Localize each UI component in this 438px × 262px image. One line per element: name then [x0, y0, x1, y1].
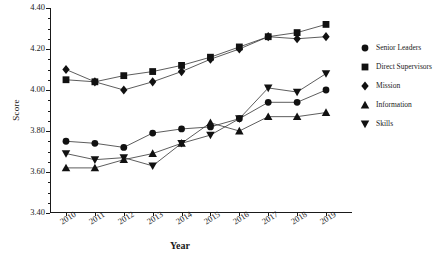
series-line: [66, 37, 326, 90]
chart-container: Score Year 3.403.603.804.004.204.40 2010…: [0, 0, 438, 262]
data-point-diamond: [361, 81, 368, 90]
series-information: [62, 108, 331, 171]
data-point-square: [149, 68, 156, 75]
legend-item-information[interactable]: Information: [358, 95, 438, 114]
data-point-circle: [323, 87, 330, 94]
y-tick-label: 4.40: [11, 2, 45, 12]
data-point-circle: [362, 44, 369, 51]
data-point-triangle-up: [91, 164, 100, 172]
data-point-triangle-down: [91, 156, 100, 164]
triangle-down-icon: [358, 117, 372, 131]
data-point-square: [120, 72, 127, 79]
data-point-square: [63, 76, 70, 83]
diamond-icon: [358, 79, 372, 93]
y-tick-label: 3.80: [11, 125, 45, 135]
plot-area: 3.403.603.804.004.204.40 201020112012201…: [50, 8, 350, 213]
data-point-circle: [120, 144, 127, 151]
data-point-circle: [178, 126, 185, 133]
data-point-triangle-up: [322, 108, 331, 116]
data-point-triangle-down: [293, 89, 302, 97]
legend-label: Skills: [376, 119, 393, 128]
data-point-triangle-up: [264, 112, 273, 120]
data-point-diamond: [62, 65, 69, 74]
series-mission: [62, 32, 329, 94]
data-point-triangle-down: [322, 70, 331, 78]
series-layer: [50, 8, 352, 214]
data-point-diamond: [322, 32, 329, 41]
y-tick-label: 3.40: [11, 207, 45, 217]
x-axis-title: Year: [0, 240, 360, 251]
legend-label: Mission: [376, 81, 400, 90]
circle-icon: [358, 41, 372, 55]
data-point-circle: [91, 140, 98, 147]
legend-label: Direct Supervisors: [376, 62, 432, 71]
legend-item-mission[interactable]: Mission: [358, 76, 438, 95]
legend-item-direct-supervisors[interactable]: Direct Supervisors: [358, 57, 438, 76]
data-point-square: [323, 21, 330, 28]
series-line: [66, 74, 326, 166]
data-point-triangle-down: [361, 120, 370, 128]
legend-label: Senior Leaders: [376, 43, 421, 52]
data-point-square: [362, 63, 369, 70]
series-senior-leaders: [63, 87, 330, 151]
square-icon: [358, 60, 372, 74]
triangle-up-icon: [358, 98, 372, 112]
data-point-circle: [149, 130, 156, 137]
legend-item-senior-leaders[interactable]: Senior Leaders: [358, 38, 438, 57]
series-line: [66, 113, 326, 168]
y-tick-label: 3.60: [11, 166, 45, 176]
legend-label: Information: [376, 100, 412, 109]
y-tick-label: 4.20: [11, 43, 45, 53]
data-point-triangle-up: [206, 119, 215, 127]
data-point-triangle-up: [148, 149, 157, 157]
data-point-diamond: [120, 85, 127, 94]
data-point-triangle-up: [235, 127, 244, 135]
data-point-triangle-down: [148, 162, 157, 170]
series-skills: [62, 70, 331, 170]
data-point-triangle-down: [206, 132, 215, 140]
series-direct-supervisors: [63, 21, 330, 85]
data-point-circle: [265, 99, 272, 106]
legend-item-skills[interactable]: Skills: [358, 114, 438, 133]
series-line: [66, 24, 326, 81]
y-tick-label: 4.00: [11, 84, 45, 94]
chart-legend: Senior LeadersDirect SupervisorsMissionI…: [358, 38, 438, 133]
data-point-diamond: [149, 77, 156, 86]
data-point-triangle-up: [62, 164, 71, 172]
data-point-circle: [294, 99, 301, 106]
data-point-triangle-up: [361, 100, 370, 108]
data-point-circle: [63, 138, 70, 145]
